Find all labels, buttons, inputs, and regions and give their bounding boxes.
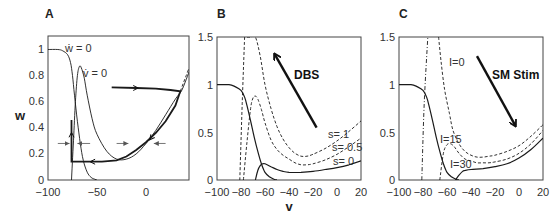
x-ticks-a: −100 −50 0 xyxy=(36,186,149,198)
x-axis-label-v: v xyxy=(285,199,293,214)
xtick-label: −40 xyxy=(280,186,299,198)
ytick-label: 1 xyxy=(389,79,395,91)
ytick-label: 0.4 xyxy=(29,121,44,133)
annotation-wdot: ẇ = 0 xyxy=(64,42,92,54)
curve-v-nullcline-v-0- xyxy=(72,66,190,180)
panel-letter-a: A xyxy=(45,7,54,21)
direction-arrow-icon xyxy=(477,56,515,126)
ytick-label: 1.5 xyxy=(380,31,395,43)
ytick-label: 0.5 xyxy=(380,127,395,139)
label-s05: s= 0.5 xyxy=(332,141,362,153)
xtick-label: −100 xyxy=(36,186,61,198)
ytick-label: 0 xyxy=(38,174,44,186)
ytick-label: 0.5 xyxy=(198,127,213,139)
series-group-a xyxy=(48,49,189,180)
xtick-label: −60 xyxy=(256,186,275,198)
label-i30: I=30 xyxy=(450,158,472,170)
ytick-label: 0.6 xyxy=(29,95,44,107)
ytick-label: 0 xyxy=(207,174,213,186)
label-s0: s= 0 xyxy=(333,155,354,167)
xtick-label: −80 xyxy=(232,186,251,198)
panel-a: A 1 0.8 0.6 0.4 0.2 0 −100 −50 0 w ẇ = 0… xyxy=(14,7,189,198)
curve-s-1-left-branch xyxy=(240,37,245,180)
x-ticks-b: −100 −80 −60 −40 −20 0 20 xyxy=(205,186,368,198)
xtick-label: 0 xyxy=(516,186,522,198)
panel-letter-b: B xyxy=(217,7,226,21)
ytick-label: 0.8 xyxy=(29,69,44,81)
ytick-label: 1 xyxy=(38,43,44,55)
y-axis-label-a: w xyxy=(14,108,26,123)
xtick-label: −20 xyxy=(304,186,323,198)
panel-b: B 1.5 1 0.5 0 −100 −80 −60 −40 −20 0 20 … xyxy=(198,7,367,214)
label-i15: I=15 xyxy=(440,133,462,145)
x-ticks-c: −100 −80 −60 −40 −20 0 20 xyxy=(387,186,550,198)
ytick-label: 1 xyxy=(207,79,213,91)
xtick-label: 0 xyxy=(143,186,149,198)
xtick-label: −80 xyxy=(414,186,433,198)
ytick-label: 1.5 xyxy=(198,31,213,43)
xtick-label: 20 xyxy=(537,186,549,198)
label-i0: I=0 xyxy=(449,56,465,68)
ytick-label: 0.2 xyxy=(29,147,44,159)
xtick-label: 20 xyxy=(355,186,367,198)
xtick-label: −100 xyxy=(387,186,412,198)
xtick-label: −40 xyxy=(462,186,481,198)
xtick-label: 0 xyxy=(334,186,340,198)
y-ticks-a: 1 0.8 0.6 0.4 0.2 0 xyxy=(29,43,44,186)
xtick-label: −50 xyxy=(88,186,107,198)
panel-letter-c: C xyxy=(399,7,408,21)
y-ticks-c: 1.5 1 0.5 0 xyxy=(380,31,395,186)
curve-extension xyxy=(180,68,189,92)
xtick-label: −60 xyxy=(438,186,457,198)
annotation-vdot: v̇ = 0 xyxy=(83,67,107,79)
figure: A 1 0.8 0.6 0.4 0.2 0 −100 −50 0 w ẇ = 0… xyxy=(0,0,559,215)
sm-stim-label: SM Stim xyxy=(492,68,539,82)
panel-c: C 1.5 1 0.5 0 −100 −80 −60 −40 −20 0 20 … xyxy=(380,7,549,198)
ytick-label: 0 xyxy=(389,174,395,186)
curve-left-branch xyxy=(422,37,428,180)
xtick-label: −20 xyxy=(486,186,505,198)
xtick-label: −100 xyxy=(205,186,230,198)
y-ticks-b: 1.5 1 0.5 0 xyxy=(198,31,213,186)
dbs-label: DBS xyxy=(294,68,319,82)
direction-arrow-icon xyxy=(275,54,317,127)
